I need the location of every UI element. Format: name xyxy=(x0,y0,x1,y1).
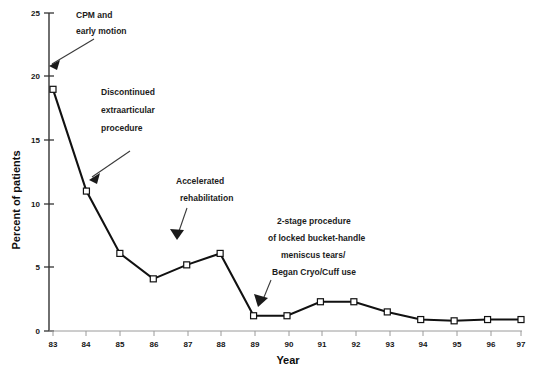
data-point-95 xyxy=(451,318,457,324)
y-axis: 25 20 15 10 5 0 Percent of patients xyxy=(10,9,54,336)
x-tick-label-88: 88 xyxy=(217,340,226,349)
data-point-91 xyxy=(317,299,323,305)
x-tick-label-94: 94 xyxy=(419,340,428,349)
data-point-87 xyxy=(184,262,190,268)
annotation-two-stage-line-1: 2-stage procedure xyxy=(277,216,351,226)
series-markers xyxy=(50,86,524,324)
chart-container: 25 20 15 10 5 0 Percent of patients xyxy=(0,0,533,371)
annotation-arrow-line xyxy=(52,39,94,64)
annotation-accelerated-line-2: rehabilitation xyxy=(180,193,233,203)
data-point-93 xyxy=(384,309,390,315)
data-series xyxy=(50,86,524,324)
x-tick-label-90: 90 xyxy=(285,340,294,349)
annotation-discontinued-line-3: procedure xyxy=(101,123,143,133)
x-axis-title: Year xyxy=(276,354,300,366)
data-point-89 xyxy=(251,313,257,319)
annotation-arrow-head xyxy=(49,60,60,70)
x-tick-label-91: 91 xyxy=(318,340,327,349)
x-tick-label-96: 96 xyxy=(487,340,496,349)
y-tick-label-25: 25 xyxy=(31,9,40,18)
data-point-86 xyxy=(150,276,156,282)
annotation-two-stage-line-2: of locked bucket-handle xyxy=(268,233,366,243)
y-tick-label-10: 10 xyxy=(31,200,40,209)
annotation-two-stage-line-4: Began Cryo/Cuff use xyxy=(272,267,356,277)
annotation-two-stage-procedure: 2-stage procedure of locked bucket-handl… xyxy=(254,216,366,307)
annotation-two-stage-line-3: meniscus tears/ xyxy=(281,250,346,260)
annotation-accelerated-rehabilitation: Accelerated rehabilitation xyxy=(170,176,233,240)
annotation-cpm-early-motion-arrow xyxy=(49,39,94,70)
x-tick-label-87: 87 xyxy=(184,340,193,349)
data-point-94 xyxy=(418,317,424,323)
annotation-cpm-early-motion-line-2: early motion xyxy=(76,26,127,36)
line-chart: 25 20 15 10 5 0 Percent of patients xyxy=(0,0,533,371)
annotation-discontinued-arrow xyxy=(89,151,130,184)
x-axis: 83 84 85 86 87 88 89 90 91 92 93 94 95 9… xyxy=(49,331,526,366)
data-point-90 xyxy=(284,313,290,319)
annotation-accelerated-arrow xyxy=(170,208,187,240)
data-point-88 xyxy=(217,250,223,256)
data-point-83 xyxy=(50,86,56,92)
y-tick-label-5: 5 xyxy=(36,263,41,272)
data-point-92 xyxy=(351,299,357,305)
annotation-cpm-early-motion-line-1: CPM and xyxy=(76,10,112,20)
data-point-85 xyxy=(117,250,123,256)
data-point-97 xyxy=(518,317,524,323)
annotation-arrow-head xyxy=(254,294,268,307)
x-tick-label-83: 83 xyxy=(49,340,58,349)
annotation-arrow-head xyxy=(170,229,184,240)
annotation-cpm-early-motion: CPM and early motion xyxy=(49,10,127,70)
x-tick-label-93: 93 xyxy=(386,340,395,349)
data-point-84 xyxy=(83,188,89,194)
annotation-discontinued-line-2: extraarticular xyxy=(101,105,156,115)
x-tick-label-95: 95 xyxy=(453,340,462,349)
x-tick-label-89: 89 xyxy=(251,340,260,349)
y-tick-label-15: 15 xyxy=(31,136,40,145)
annotation-accelerated-line-1: Accelerated xyxy=(176,176,224,186)
x-tick-label-85: 85 xyxy=(116,340,125,349)
x-tick-label-84: 84 xyxy=(82,340,91,349)
x-tick-label-86: 86 xyxy=(150,340,159,349)
annotation-discontinued-line-1: Discontinued xyxy=(101,87,155,97)
annotation-discontinued-extraarticular: Discontinued extraarticular procedure xyxy=(89,87,156,184)
y-tick-label-0: 0 xyxy=(36,327,41,336)
annotation-two-stage-arrow xyxy=(254,280,271,307)
y-axis-title: Percent of patients xyxy=(10,150,22,249)
y-tick-label-20: 20 xyxy=(31,72,40,81)
annotation-arrow-line xyxy=(92,151,130,177)
x-tick-label-97: 97 xyxy=(517,340,526,349)
x-tick-label-92: 92 xyxy=(352,340,361,349)
data-point-96 xyxy=(485,317,491,323)
